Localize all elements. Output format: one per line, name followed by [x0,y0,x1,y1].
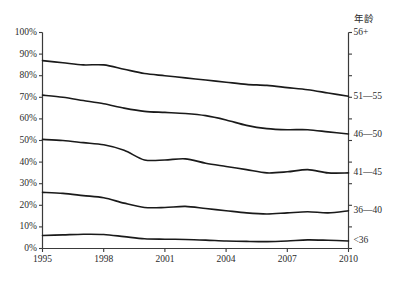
series-end-label-2: 46—50 [354,129,383,139]
series-end-label-3: 41—45 [354,167,383,177]
series-end-label-56plus: 56+ [354,27,369,37]
series-end-label-4: 36—40 [354,205,383,215]
series-end-label-1: 51—55 [354,91,383,101]
legend-title: 年龄 [354,13,374,24]
chart-container: 100%90%80%70%60%50%40%30%20%10%0% 199519… [0,0,402,281]
series-end-labels: 56+51—5546—5041—4536—40<36 [0,0,402,281]
series-end-label-5: <36 [354,235,369,245]
